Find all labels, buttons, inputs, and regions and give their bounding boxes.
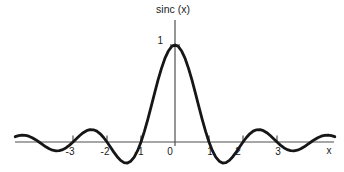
x-tick-label-pos3: 3 xyxy=(275,146,281,157)
plot-title: sinc (x) xyxy=(156,3,190,15)
x-tick-label-neg3: -3 xyxy=(66,146,75,157)
y-tick-label-1: 1 xyxy=(157,35,163,46)
x-axis-label: x xyxy=(327,145,332,156)
x-tick-label-0: 0 xyxy=(167,146,173,157)
x-tick-label-pos2: 2 xyxy=(235,146,241,157)
x-tick-label-neg2: -2 xyxy=(101,146,110,157)
x-tick-label-pos1: 1 xyxy=(207,146,213,157)
x-tick-label-neg1: -1 xyxy=(135,146,144,157)
sinc-plot-canvas: sinc (x) 1 -3 -2 -1 0 1 2 3 x xyxy=(0,0,344,172)
sinc-figure: sinc (x) 1 -3 -2 -1 0 1 2 3 x xyxy=(0,0,344,172)
